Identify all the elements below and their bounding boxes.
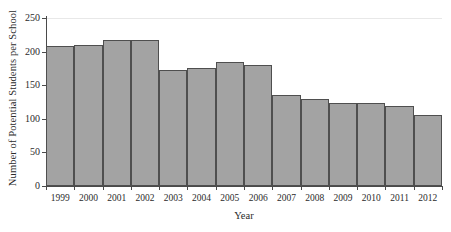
- x-tick-mark: [385, 187, 386, 190]
- bar: [216, 62, 244, 186]
- x-tick-label: 2012: [411, 192, 445, 204]
- x-tick-mark: [159, 187, 160, 190]
- y-tick-label: 50: [6, 147, 40, 157]
- bars-layer: [46, 18, 442, 186]
- bar: [385, 106, 414, 186]
- bar: [272, 95, 301, 186]
- y-tick-label: 250: [6, 13, 40, 23]
- x-tick-mark: [74, 187, 75, 190]
- x-tick-mark: [442, 187, 443, 190]
- x-tick-mark: [187, 187, 188, 190]
- x-axis-title: Year: [46, 209, 442, 223]
- y-tick-label: 0: [6, 181, 40, 191]
- bar: [131, 40, 159, 186]
- bar: [357, 103, 385, 186]
- y-tick-label: 150: [6, 80, 40, 90]
- bar: [46, 46, 74, 186]
- x-tick-mark: [329, 187, 330, 190]
- y-axis-title: Number of Potential Students per School: [4, 0, 22, 196]
- x-tick-mark: [244, 187, 245, 190]
- x-tick-mark: [301, 187, 302, 190]
- x-tick-mark: [357, 187, 358, 190]
- y-tick-label: 200: [6, 47, 40, 57]
- x-tick-mark: [46, 187, 47, 190]
- bar: [414, 115, 442, 186]
- x-tick-mark: [131, 187, 132, 190]
- bar: [244, 65, 272, 186]
- bar: [159, 70, 187, 186]
- x-tick-mark: [216, 187, 217, 190]
- x-tick-mark: [272, 187, 273, 190]
- bar: [301, 99, 329, 186]
- bar: [74, 45, 103, 186]
- bar-chart-figure: Number of Potential Students per School …: [0, 0, 451, 232]
- y-tick-label: 100: [6, 114, 40, 124]
- x-tick-mark: [414, 187, 415, 190]
- x-tick-mark: [103, 187, 104, 190]
- bar: [187, 68, 216, 186]
- bar: [329, 103, 357, 186]
- bar: [103, 40, 131, 186]
